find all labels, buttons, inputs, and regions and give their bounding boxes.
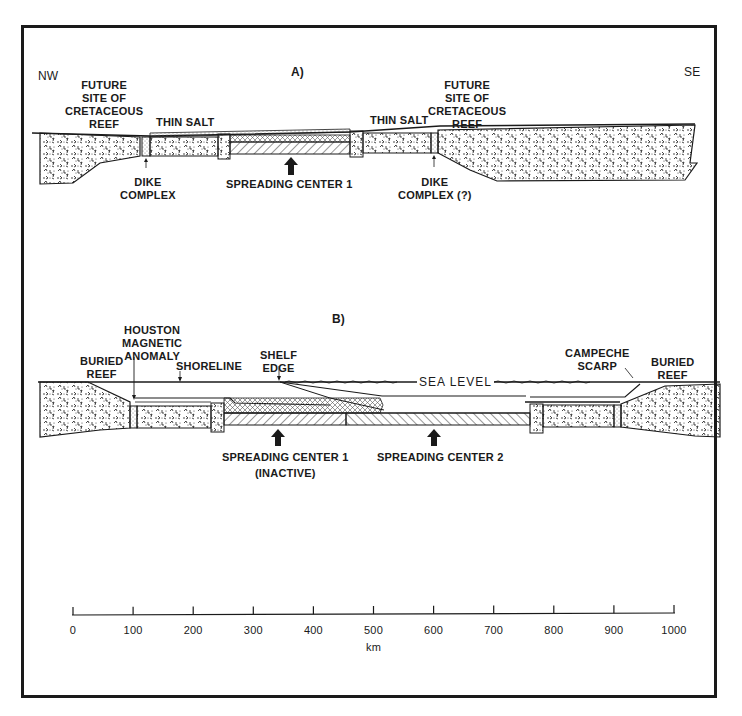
scale-tick-label: 700 (474, 624, 514, 637)
buried-reef-left-label: BURIED REEF (80, 355, 123, 381)
dike-complex-left-label: DIKE COMPLEX (120, 176, 176, 202)
oceanic-crust-spreading-2-b (346, 413, 530, 425)
campeche-scarp-label: CAMPECHE SCARP (565, 347, 630, 373)
scale-tick-label: 600 (414, 624, 454, 637)
scale-tick-label: 200 (173, 624, 213, 637)
scale-tick-label: 100 (113, 624, 153, 637)
orientation-se-label: SE (684, 66, 700, 79)
future-reef-site-left-label: FUTURE SITE OF CRETACEOUS REEF (65, 79, 143, 131)
panel-b-title: B) (332, 313, 345, 326)
dike-complex-right-b (614, 405, 621, 427)
spreading-center-2-arrow-b (427, 429, 441, 446)
thin-salt-right-label: THIN SALT (370, 114, 428, 127)
thin-salt-left-label: THIN SALT (156, 116, 214, 129)
scale-tick-label: 1000 (654, 624, 694, 637)
shelf-edge-label: SHELF EDGE (260, 349, 297, 375)
dike-complex-right-label: DIKE COMPLEX (?) (398, 176, 472, 202)
spreading-center-1-inactive-note: (INACTIVE) (255, 467, 316, 480)
scale-unit-label: km (366, 641, 381, 654)
shoreline-label: SHORELINE (176, 360, 242, 373)
oceanic-crust-spreading-1-b (224, 413, 346, 425)
spreading-center-1-arrow-a (284, 157, 298, 175)
houston-magnetic-anomaly-dike (130, 406, 137, 428)
scale-tick-label: 500 (354, 624, 394, 637)
scale-tick-label: 400 (293, 624, 333, 637)
continental-crust-left-b (40, 382, 130, 437)
dike-complex-right (431, 133, 438, 153)
scale-tick-label: 900 (594, 624, 634, 637)
panel-a-title: A) (291, 66, 304, 79)
spreading-center-2-label: SPREADING CENTER 2 (377, 451, 503, 464)
scale-tick-label: 300 (233, 624, 273, 637)
dike-complex-left (142, 137, 150, 156)
sea-level-line (285, 381, 397, 383)
continental-crust-right-b (621, 384, 720, 437)
scale-tick-label: 0 (53, 624, 93, 637)
buried-reef-right-label: BURIED REEF (651, 356, 694, 382)
houston-magnetic-anomaly-label: HOUSTON MAGNETIC ANOMALY (122, 324, 182, 363)
future-reef-site-right-label: FUTURE SITE OF CRETACEOUS REEF (428, 79, 506, 131)
spreading-center-1-label-a: SPREADING CENTER 1 (226, 178, 352, 191)
orientation-nw-label: NW (38, 70, 58, 83)
spreading-center-1-label-b: SPREADING CENTER 1 (222, 451, 348, 464)
geologic-cross-section-figure: NW SE A) FUTURE SITE OF CRETACEOUS REEF … (0, 0, 742, 716)
oceanic-crust-spreading-1 (230, 142, 350, 154)
panel-a-section (32, 124, 697, 184)
continental-crust-right-a (438, 125, 697, 181)
scale-tick-label: 800 (534, 624, 574, 637)
spreading-center-1-arrow-b (271, 429, 285, 446)
sea-level-label: SEA LEVEL (417, 376, 494, 389)
scale-bar (72, 605, 675, 615)
